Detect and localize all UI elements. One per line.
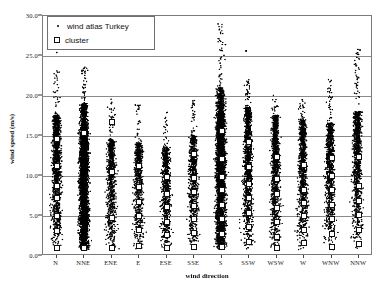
cluster-marker bbox=[54, 228, 60, 234]
cluster-marker bbox=[356, 154, 362, 160]
y-tick-label: 30.0 bbox=[0, 12, 38, 19]
cluster-marker bbox=[109, 119, 115, 125]
cluster-marker bbox=[136, 213, 142, 219]
cluster-marker bbox=[54, 136, 60, 142]
cluster-marker bbox=[81, 130, 87, 136]
x-tick-mark bbox=[166, 255, 167, 258]
cluster-marker bbox=[356, 212, 362, 218]
x-tick-label: N bbox=[53, 259, 58, 266]
x-tick-label: WSW bbox=[268, 259, 285, 266]
cluster-marker bbox=[274, 191, 280, 197]
x-tick-label: SSW bbox=[241, 259, 255, 266]
cluster-marker bbox=[301, 187, 307, 193]
cluster-marker bbox=[219, 156, 225, 162]
cluster-marker bbox=[246, 181, 252, 187]
cluster-marker bbox=[219, 187, 225, 193]
x-tick-label: E bbox=[136, 259, 140, 266]
cluster-marker bbox=[136, 199, 142, 205]
cluster-marker bbox=[54, 245, 60, 251]
cluster-marker bbox=[109, 215, 115, 221]
y-tick-label: 20.0 bbox=[0, 92, 38, 99]
cluster-marker bbox=[274, 219, 280, 225]
cluster-marker bbox=[301, 213, 307, 219]
cluster-marker bbox=[191, 175, 197, 181]
cluster-marker bbox=[246, 210, 252, 216]
cluster-marker bbox=[219, 174, 225, 180]
legend-dot-icon bbox=[57, 25, 59, 27]
x-tick-label: NNE bbox=[76, 259, 90, 266]
cluster-marker bbox=[164, 245, 170, 251]
cluster-marker bbox=[356, 227, 362, 233]
cluster-marker bbox=[164, 219, 170, 225]
x-axis-title: wind direction bbox=[42, 272, 372, 280]
cluster-marker bbox=[274, 154, 280, 160]
x-tick-label: NNW bbox=[350, 259, 366, 266]
x-tick-label: S bbox=[219, 259, 223, 266]
legend-label-wind-atlas: wind atlas Turkey bbox=[67, 22, 129, 31]
cluster-marker bbox=[164, 174, 170, 180]
cluster-marker bbox=[136, 243, 142, 249]
cluster-marker bbox=[81, 245, 87, 251]
cluster-marker bbox=[136, 184, 142, 190]
cluster-marker bbox=[219, 216, 225, 222]
cluster-marker bbox=[54, 163, 60, 169]
cluster-marker bbox=[54, 213, 60, 219]
x-tick-mark bbox=[138, 255, 139, 258]
cluster-marker bbox=[356, 198, 362, 204]
cluster-marker bbox=[329, 187, 335, 193]
cluster-marker bbox=[356, 183, 362, 189]
cluster-marker bbox=[164, 191, 170, 197]
cluster-marker bbox=[54, 183, 60, 189]
legend-entry-cluster: cluster bbox=[54, 34, 89, 46]
cluster-marker bbox=[109, 245, 115, 251]
cluster-marker bbox=[246, 139, 252, 145]
cluster-marker bbox=[136, 227, 142, 233]
cluster-marker bbox=[219, 128, 225, 134]
cluster-marker bbox=[329, 231, 335, 237]
y-tick-label: 0.0 bbox=[0, 252, 38, 259]
x-tick-label: W bbox=[300, 259, 306, 266]
cluster-marker bbox=[329, 216, 335, 222]
cluster-marker bbox=[274, 245, 280, 251]
cluster-marker bbox=[219, 202, 225, 208]
x-tick-label: WNW bbox=[322, 259, 340, 266]
y-tick-label: 25.0 bbox=[0, 52, 38, 59]
cluster-marker bbox=[191, 189, 197, 195]
x-tick-mark bbox=[56, 255, 57, 258]
cluster-marker bbox=[274, 234, 280, 240]
chart-legend: wind atlas Turkey cluster bbox=[47, 16, 155, 50]
x-tick-mark bbox=[248, 255, 249, 258]
cluster-marker bbox=[164, 232, 170, 238]
cluster-marker bbox=[274, 176, 280, 182]
y-tick-label: 15.0 bbox=[0, 132, 38, 139]
x-tick-mark bbox=[276, 255, 277, 258]
cluster-marker bbox=[136, 163, 142, 169]
cluster-marker bbox=[301, 200, 307, 206]
cluster-marker bbox=[329, 173, 335, 179]
cluster-marker bbox=[356, 241, 362, 247]
wind-speed-direction-scatter-chart: wind speed (m/s) 0.05.010.015.020.025.03… bbox=[0, 0, 383, 293]
x-tick-label: SSE bbox=[187, 259, 199, 266]
x-tick-mark bbox=[221, 255, 222, 258]
x-tick-label: ENE bbox=[104, 259, 117, 266]
cluster-marker bbox=[301, 240, 307, 246]
x-tick-mark bbox=[111, 255, 112, 258]
cluster-marker bbox=[329, 202, 335, 208]
cluster-marker bbox=[301, 162, 307, 168]
x-tick-mark bbox=[83, 255, 84, 258]
x-tick-mark bbox=[358, 255, 359, 258]
cluster-marker bbox=[191, 230, 197, 236]
cluster-markers-layer bbox=[43, 16, 371, 254]
legend-entry-wind-atlas: wind atlas Turkey bbox=[54, 20, 129, 32]
cluster-marker bbox=[246, 239, 252, 245]
x-tick-mark bbox=[303, 255, 304, 258]
cluster-marker bbox=[246, 195, 252, 201]
cluster-marker bbox=[301, 227, 307, 233]
cluster-marker bbox=[246, 164, 252, 170]
cluster-marker bbox=[191, 216, 197, 222]
cluster-marker bbox=[191, 244, 197, 250]
cluster-marker bbox=[54, 195, 60, 201]
legend-square-icon bbox=[54, 37, 60, 43]
x-tick-mark bbox=[331, 255, 332, 258]
cluster-marker bbox=[191, 203, 197, 209]
